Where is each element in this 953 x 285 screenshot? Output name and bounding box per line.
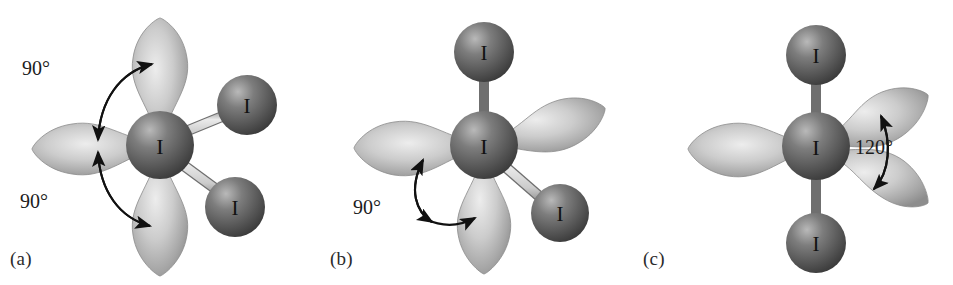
panel-label-a: (a) bbox=[10, 248, 32, 270]
figure-canvas: I I I 90° 90° (a) bbox=[0, 0, 953, 285]
atom-label-i: I bbox=[156, 134, 163, 159]
central-iodine-atom: I bbox=[450, 111, 518, 179]
atom-label-i: I bbox=[813, 232, 820, 256]
panel-a: I I I 90° 90° (a) bbox=[0, 0, 320, 285]
panel-label-c: (c) bbox=[643, 248, 665, 270]
bonded-iodine-top: I bbox=[454, 22, 514, 82]
bonded-iodine-top: I bbox=[786, 25, 846, 85]
bonded-iodine-lower-right: I bbox=[205, 177, 265, 237]
angle-label-lower: 90° bbox=[20, 190, 48, 213]
atom-label-i: I bbox=[481, 41, 488, 65]
atom-label-i: I bbox=[813, 44, 820, 68]
central-iodine-atom: I bbox=[782, 112, 850, 180]
bonded-iodine-lower-right: I bbox=[531, 184, 589, 242]
atom-label-i: I bbox=[232, 196, 239, 220]
panel-b-drawing: I I I bbox=[320, 0, 633, 285]
angle-label-main: 120° bbox=[855, 136, 893, 159]
bonded-iodine-bottom: I bbox=[786, 213, 846, 273]
panel-a-drawing: I I I bbox=[0, 0, 320, 285]
central-iodine-atom: I bbox=[126, 111, 194, 179]
atom-label-i: I bbox=[244, 94, 251, 118]
bonded-iodine-upper-right: I bbox=[217, 75, 277, 135]
atom-label-i: I bbox=[812, 135, 819, 160]
panel-label-b: (b) bbox=[330, 248, 353, 270]
panel-c: I I I 120° (c) bbox=[633, 0, 953, 285]
angle-label-upper: 90° bbox=[22, 57, 50, 80]
angle-label-main: 90° bbox=[353, 196, 381, 219]
panel-c-drawing: I I I bbox=[633, 0, 953, 285]
atom-label-i: I bbox=[557, 202, 564, 226]
atom-label-i: I bbox=[480, 134, 487, 159]
panel-b: I I I 90° (b) bbox=[320, 0, 633, 285]
